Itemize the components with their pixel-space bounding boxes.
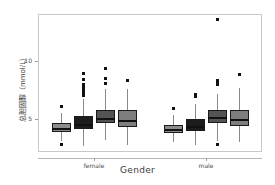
- outlier-point: [104, 82, 107, 85]
- x-tick-label: female: [64, 162, 124, 169]
- x-tick-mark: [94, 158, 95, 161]
- outlier-point: [104, 67, 107, 70]
- box: [74, 116, 93, 129]
- y-tick-label: 10: [16, 58, 32, 64]
- outlier-point: [104, 77, 107, 80]
- median-line: [96, 118, 115, 120]
- y-axis-title: 总胆固醇（mmol/L）: [17, 28, 27, 148]
- outlier-point: [216, 18, 219, 21]
- outlier-point: [216, 83, 219, 86]
- median-line: [74, 124, 93, 126]
- median-line: [230, 119, 249, 121]
- x-tick-mark: [206, 158, 207, 161]
- outlier-point: [60, 143, 63, 146]
- outlier-point: [82, 94, 85, 97]
- box: [118, 110, 137, 126]
- x-axis-line: [38, 158, 262, 159]
- median-line: [186, 126, 205, 128]
- outlier-point: [172, 107, 175, 110]
- x-tick-label: male: [176, 162, 236, 169]
- outlier-point: [82, 72, 85, 75]
- median-line: [118, 120, 137, 122]
- outlier-point: [60, 105, 63, 108]
- y-tick-mark: [35, 61, 38, 62]
- median-line: [164, 129, 183, 131]
- box: [186, 119, 205, 131]
- outlier-point: [238, 73, 241, 76]
- boxplot-figure: Gender 总胆固醇（mmol/L） 510femalemale: [0, 0, 275, 185]
- outlier-point: [126, 79, 129, 82]
- outlier-point: [216, 143, 219, 146]
- outlier-point: [82, 78, 85, 81]
- y-tick-label: 5: [16, 116, 32, 122]
- outlier-point: [194, 95, 197, 98]
- median-line: [52, 128, 71, 130]
- y-tick-mark: [35, 119, 38, 120]
- median-line: [208, 117, 227, 119]
